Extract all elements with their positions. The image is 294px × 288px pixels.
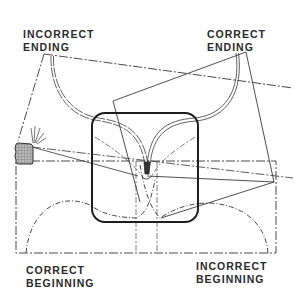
- label-incorrect-ending: INCORRECT ENDING: [23, 28, 94, 54]
- label-incorrect-ending-line2: ENDING: [23, 41, 94, 54]
- label-incorrect-beginning-line1: INCORRECT: [196, 260, 267, 273]
- incorrect-ending-tilted-rectangle: [18, 54, 293, 178]
- correct-ending-tilted-rectangle: [113, 52, 274, 218]
- label-correct-ending: CORRECT ENDING: [207, 28, 266, 54]
- radiating-marks: [31, 126, 46, 144]
- label-correct-beginning: CORRECT BEGINNING: [26, 264, 95, 288]
- label-incorrect-ending-line1: INCORRECT: [23, 28, 94, 41]
- label-correct-beginning-line1: CORRECT: [26, 264, 95, 277]
- center-pinch-mark: [144, 162, 150, 174]
- hatched-block-left: [15, 143, 33, 164]
- center-guide-lines: [136, 161, 157, 253]
- label-incorrect-beginning-line2: BEGINNING: [196, 273, 267, 286]
- label-correct-ending-line1: CORRECT: [207, 28, 266, 41]
- label-incorrect-beginning: INCORRECT BEGINNING: [196, 260, 267, 286]
- label-correct-ending-line2: ENDING: [207, 41, 266, 54]
- double-line-curve-left: [51, 56, 148, 165]
- bottom-dashed-rectangle: [16, 161, 276, 253]
- label-correct-beginning-line2: BEGINNING: [26, 277, 95, 288]
- dashed-arc-bottom-right: [140, 165, 268, 253]
